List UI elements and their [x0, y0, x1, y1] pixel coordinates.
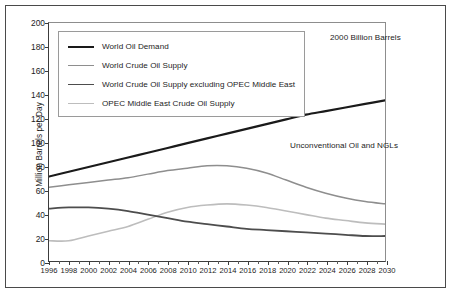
x-tick-mark	[148, 261, 149, 265]
x-tick-label: 2028	[359, 266, 376, 275]
y-tick-label: 200	[31, 18, 45, 28]
x-tick-mark	[89, 261, 90, 265]
y-tick-label: 60	[36, 186, 45, 196]
x-tick-label: 1998	[60, 266, 77, 275]
x-tick-label: 2000	[80, 266, 97, 275]
x-tick-mark	[158, 261, 159, 264]
x-tick-mark	[138, 261, 139, 264]
x-tick-mark	[337, 261, 338, 264]
x-tick-label: 2026	[339, 266, 356, 275]
x-tick-mark	[168, 261, 169, 265]
legend-item-label: World Oil Demand	[102, 42, 169, 51]
x-tick-mark	[377, 261, 378, 264]
x-tick-label: 2030	[379, 266, 396, 275]
x-tick-mark	[119, 261, 120, 264]
x-tick-mark	[387, 261, 388, 265]
legend-swatch-line-icon	[68, 46, 94, 48]
x-tick-label: 1996	[41, 266, 58, 275]
legend-item-label: World Crude Oil Supply excluding OPEC Mi…	[102, 80, 295, 89]
legend-swatch-line-icon	[68, 84, 94, 85]
y-tick-mark	[45, 215, 49, 216]
legend-swatch-line-icon	[68, 65, 94, 66]
x-tick-mark	[288, 261, 289, 265]
legend-item-label: World Crude Oil Supply	[102, 61, 188, 70]
legend-item: World Crude Oil Supply excluding OPEC Mi…	[59, 75, 304, 94]
series-line	[49, 204, 385, 241]
x-tick-label: 2002	[100, 266, 117, 275]
x-tick-mark	[357, 261, 358, 264]
x-tick-label: 2018	[259, 266, 276, 275]
y-tick-mark	[45, 23, 49, 24]
x-tick-label: 2012	[200, 266, 217, 275]
x-tick-label: 2004	[120, 266, 137, 275]
y-tick-label: 20	[36, 234, 45, 244]
y-tick-label: 180	[31, 42, 45, 52]
x-tick-label: 2016	[239, 266, 256, 275]
legend-swatch-line-icon	[68, 103, 94, 104]
y-tick-label: 100	[31, 138, 45, 148]
x-tick-mark	[248, 261, 249, 265]
annotation-title: 2000 Billion Barrels	[330, 33, 401, 42]
x-tick-mark	[198, 261, 199, 264]
x-tick-mark	[258, 261, 259, 264]
x-tick-mark	[208, 261, 209, 265]
x-tick-mark	[79, 261, 80, 264]
x-tick-label: 2020	[279, 266, 296, 275]
series-line	[49, 207, 385, 236]
x-tick-mark	[317, 261, 318, 264]
series-line	[49, 166, 385, 204]
y-tick-mark	[45, 47, 49, 48]
y-tick-label: 140	[31, 90, 45, 100]
x-tick-mark	[178, 261, 179, 264]
legend-item-label: OPEC Middle East Crude Oil Supply	[102, 99, 235, 108]
x-tick-mark	[238, 261, 239, 264]
chart-legend: World Oil DemandWorld Crude Oil SupplyWo…	[58, 31, 305, 117]
y-tick-label: 160	[31, 66, 45, 76]
x-tick-mark	[278, 261, 279, 264]
annotation-unconventional-oil: Unconventional Oil and NGLs	[290, 141, 398, 150]
x-tick-mark	[327, 261, 328, 265]
y-tick-label: 120	[31, 114, 45, 124]
x-tick-mark	[228, 261, 229, 265]
x-tick-mark	[268, 261, 269, 265]
x-tick-mark	[188, 261, 189, 265]
x-tick-label: 2014	[219, 266, 236, 275]
x-tick-label: 2006	[140, 266, 157, 275]
y-tick-mark	[45, 119, 49, 120]
x-tick-label: 2008	[160, 266, 177, 275]
y-tick-mark	[45, 71, 49, 72]
x-tick-mark	[109, 261, 110, 265]
legend-item: OPEC Middle East Crude Oil Supply	[59, 94, 304, 113]
x-tick-mark	[307, 261, 308, 265]
legend-item: World Oil Demand	[59, 37, 304, 56]
y-tick-mark	[45, 95, 49, 96]
x-tick-mark	[49, 261, 50, 265]
y-tick-label: 80	[36, 162, 45, 172]
x-tick-mark	[347, 261, 348, 265]
x-tick-mark	[218, 261, 219, 264]
x-tick-mark	[69, 261, 70, 265]
y-tick-mark	[45, 191, 49, 192]
x-tick-label: 2024	[319, 266, 336, 275]
x-tick-label: 2010	[180, 266, 197, 275]
y-tick-mark	[45, 143, 49, 144]
x-tick-label: 2022	[299, 266, 316, 275]
x-tick-mark	[367, 261, 368, 265]
y-tick-mark	[45, 167, 49, 168]
x-tick-mark	[59, 261, 60, 264]
legend-item: World Crude Oil Supply	[59, 56, 304, 75]
chart-figure: Million Barrels per Day 0204060801001201…	[0, 0, 451, 293]
x-tick-mark	[129, 261, 130, 265]
y-tick-label: 40	[36, 210, 45, 220]
x-tick-mark	[99, 261, 100, 264]
y-tick-mark	[45, 239, 49, 240]
x-tick-mark	[298, 261, 299, 264]
